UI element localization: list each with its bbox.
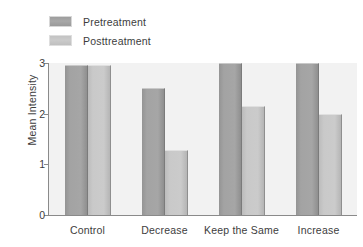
bar-group-bars (49, 63, 126, 215)
bar-pretreatment[interactable] (219, 63, 242, 215)
y-axis-title: Mean Intensity (26, 50, 38, 170)
bar-posttreatment[interactable] (88, 65, 111, 215)
x-axis-category-label: Decrease (141, 224, 188, 236)
y-axis-tick-label: 2 (39, 108, 45, 120)
x-axis-category-label: Control (70, 224, 105, 236)
plot-area: ControlDecreaseKeep the SameIncrease 012… (48, 63, 357, 216)
bar-group: Decrease (126, 63, 203, 215)
bar-group-bars (203, 63, 280, 215)
bar-group: Control (49, 63, 126, 215)
y-axis-tick-label: 0 (39, 209, 45, 221)
bar-group-bars (280, 63, 357, 215)
bar-posttreatment[interactable] (165, 150, 188, 215)
bar-pretreatment[interactable] (65, 65, 88, 215)
legend-item-pretreatment: Pretreatment (49, 12, 249, 31)
legend-label-posttreatment: Posttreatment (83, 35, 151, 47)
legend-swatch-pretreatment (49, 16, 72, 27)
bar-pretreatment[interactable] (296, 63, 319, 215)
plot-inner: ControlDecreaseKeep the SameIncrease (49, 63, 357, 215)
bar-posttreatment[interactable] (319, 114, 342, 215)
x-axis-category-label: Keep the Same (204, 224, 279, 236)
bar-chart-figure: Pretreatment Posttreatment Mean Intensit… (0, 0, 363, 247)
y-axis-tick-label: 1 (39, 158, 45, 170)
legend-label-pretreatment: Pretreatment (83, 16, 146, 28)
legend-swatch-posttreatment (49, 35, 72, 46)
y-axis-tick-label: 3 (39, 57, 45, 69)
bar-group: Increase (280, 63, 357, 215)
legend-item-posttreatment: Posttreatment (49, 31, 249, 50)
x-axis-category-label: Increase (298, 224, 340, 236)
chart-legend: Pretreatment Posttreatment (49, 12, 249, 50)
bar-posttreatment[interactable] (242, 106, 265, 215)
bar-pretreatment[interactable] (142, 88, 165, 215)
bar-group-bars (126, 63, 203, 215)
bar-group: Keep the Same (203, 63, 280, 215)
